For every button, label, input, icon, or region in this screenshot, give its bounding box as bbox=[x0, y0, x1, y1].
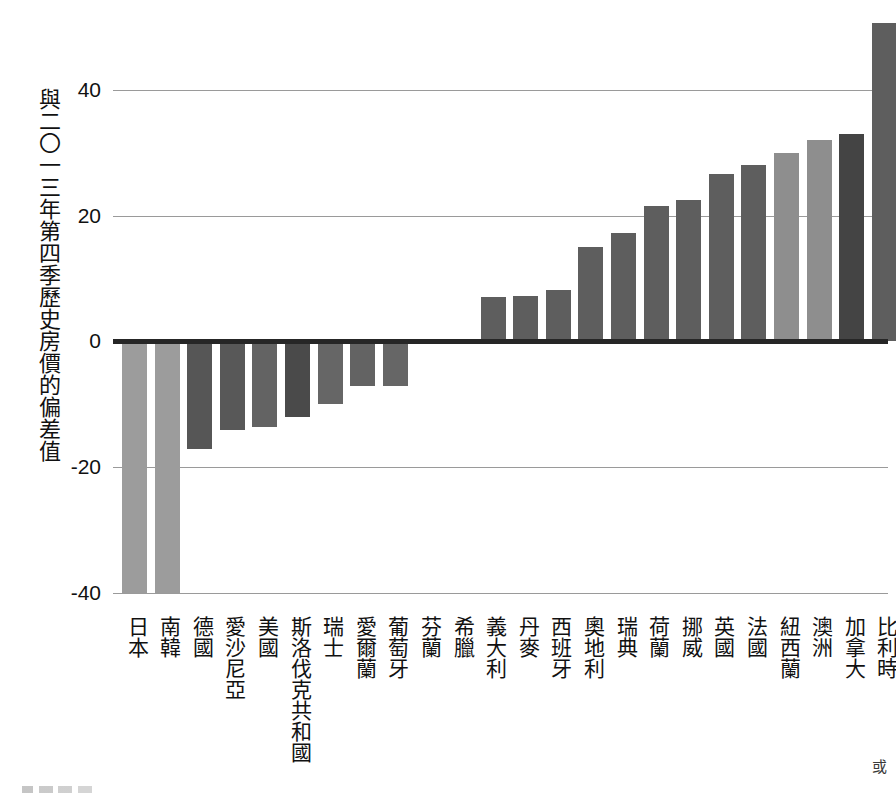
bar bbox=[252, 341, 277, 426]
x-tick-label: 愛沙尼亞 bbox=[219, 616, 245, 700]
x-tick-label: 比利時 bbox=[871, 616, 896, 679]
x-tick-label: 紐西蘭 bbox=[774, 616, 800, 679]
x-tick-label: 斯洛伐克共和國 bbox=[285, 616, 311, 763]
x-axis-labels: 日本南韓德國愛沙尼亞美國斯洛伐克共和國瑞士愛爾蘭葡萄牙芬蘭希臘義大利丹麥西班牙奧… bbox=[113, 616, 888, 796]
bar bbox=[774, 153, 799, 342]
x-tick-label: 挪威 bbox=[676, 616, 702, 658]
bar bbox=[513, 296, 538, 341]
bar-series bbox=[113, 14, 888, 606]
x-tick-label: 加拿大 bbox=[839, 616, 865, 679]
corner-glyph: 或 bbox=[872, 758, 890, 776]
x-tick-label: 西班牙 bbox=[545, 616, 571, 679]
bar bbox=[383, 341, 408, 385]
bar bbox=[741, 165, 766, 341]
x-tick-label: 瑞典 bbox=[611, 616, 637, 658]
x-tick-label: 南韓 bbox=[154, 616, 180, 658]
zero-axis-line bbox=[113, 339, 888, 344]
chart-canvas: 與二〇一三年第四季歷史房價的偏差值 40200-20-40 日本南韓德國愛沙尼亞… bbox=[0, 0, 896, 803]
plot-area: 40200-20-40 bbox=[113, 14, 888, 606]
y-tick-label-40: 40 bbox=[78, 78, 101, 102]
y-tick-label-0: 0 bbox=[89, 329, 101, 353]
bar bbox=[155, 341, 180, 593]
bar bbox=[122, 341, 147, 593]
bar bbox=[350, 341, 375, 385]
bar bbox=[578, 247, 603, 341]
y-tick-label--40: -40 bbox=[71, 581, 101, 605]
x-tick-label: 德國 bbox=[187, 616, 213, 658]
bar bbox=[872, 23, 896, 341]
x-tick-label: 丹麥 bbox=[513, 616, 539, 658]
bar bbox=[611, 233, 636, 342]
bar bbox=[676, 200, 701, 342]
bar bbox=[187, 341, 212, 448]
bar bbox=[285, 341, 310, 417]
y-tick-label--20: -20 bbox=[71, 455, 101, 479]
bar bbox=[644, 206, 669, 341]
x-tick-label: 希臘 bbox=[448, 616, 474, 658]
y-axis-title: 與二〇一三年第四季歷史房價的偏差值 bbox=[18, 88, 58, 628]
x-tick-label: 愛爾蘭 bbox=[350, 616, 376, 679]
x-tick-label: 奧地利 bbox=[578, 616, 604, 679]
bar bbox=[220, 341, 245, 429]
bar bbox=[318, 341, 343, 404]
x-tick-label: 芬蘭 bbox=[415, 616, 441, 658]
bar bbox=[546, 290, 571, 342]
bar bbox=[807, 140, 832, 342]
bar bbox=[481, 297, 506, 341]
bar bbox=[839, 134, 864, 342]
x-tick-label: 義大利 bbox=[480, 616, 506, 679]
x-tick-label: 日本 bbox=[122, 616, 148, 658]
x-tick-label: 美國 bbox=[252, 616, 278, 658]
x-tick-label: 澳洲 bbox=[806, 616, 832, 658]
x-tick-label: 英國 bbox=[708, 616, 734, 658]
x-tick-label: 荷蘭 bbox=[643, 616, 669, 658]
footnote-smudge bbox=[22, 786, 92, 793]
x-tick-label: 瑞士 bbox=[317, 616, 343, 658]
bar bbox=[709, 174, 734, 342]
y-tick-label-20: 20 bbox=[78, 204, 101, 228]
x-tick-label: 葡萄牙 bbox=[382, 616, 408, 679]
x-tick-label: 法國 bbox=[741, 616, 767, 658]
